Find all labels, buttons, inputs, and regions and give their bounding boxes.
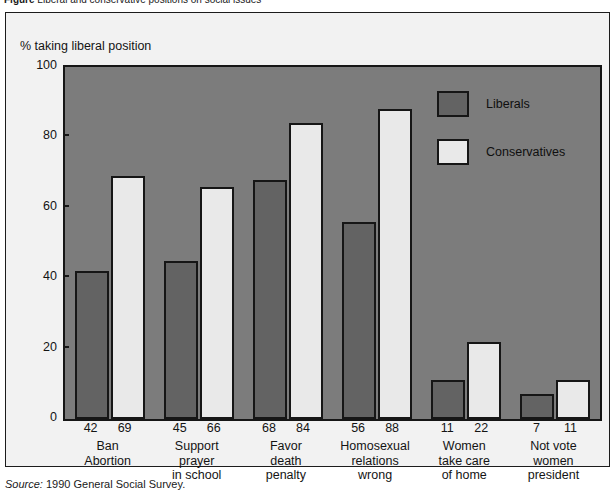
source-note: Source: 1990 General Social Survey. <box>5 478 185 490</box>
x-axis-category-line: take care <box>420 454 509 469</box>
x-axis-category-line: Support <box>152 439 241 454</box>
x-axis-category-line: president <box>509 468 598 483</box>
legend-swatch-conservatives-icon <box>437 139 469 165</box>
figure-caption-prefix: Figure <box>4 0 35 5</box>
y-tick-label: 40 <box>11 269 57 283</box>
x-axis-group: 1122Womentake careof home <box>420 421 509 483</box>
y-tick-mark <box>63 134 69 136</box>
x-axis-category-line: Women <box>420 439 509 454</box>
bar-liberals-1 <box>75 271 109 419</box>
x-axis-value: 42 <box>74 421 108 436</box>
x-axis-category-line: Favor <box>241 439 330 454</box>
y-axis-title: % taking liberal position <box>20 39 151 53</box>
plot-area: Liberals Conservatives <box>63 65 602 421</box>
figure-frame: % taking liberal position 020406080100 L… <box>5 12 610 467</box>
x-axis-category-line: Ban <box>63 439 152 454</box>
x-axis-value-labels: 711 <box>509 421 598 436</box>
x-axis-value: 11 <box>430 421 464 436</box>
bar-liberals-4 <box>342 222 376 419</box>
chart-legend: Liberals Conservatives <box>437 89 597 185</box>
bar-liberals-2 <box>164 261 198 419</box>
y-tick-mark <box>63 346 69 348</box>
figure-caption-body: Liberal and conservative positions on so… <box>37 0 261 5</box>
source-label: Source: <box>5 478 43 490</box>
x-axis-category-label: Not votewomenpresident <box>509 439 598 483</box>
bar-conservatives-3 <box>289 123 323 419</box>
x-axis-value: 69 <box>108 421 142 436</box>
x-axis-category-line: penalty <box>241 468 330 483</box>
bar-conservatives-2 <box>200 187 234 419</box>
x-axis-value: 84 <box>286 421 320 436</box>
x-axis-category-line: women <box>509 454 598 469</box>
x-axis-group: 6884Favordeathpenalty <box>241 421 330 483</box>
y-tick-label: 0 <box>11 410 57 424</box>
x-axis-value: 68 <box>252 421 286 436</box>
x-axis-category-line: Homosexual <box>331 439 420 454</box>
x-axis-value: 22 <box>464 421 498 436</box>
bar-conservatives-4 <box>378 109 412 419</box>
y-axis-tick-labels: 020406080100 <box>6 65 57 417</box>
x-axis-group: 4566Supportprayerin school <box>152 421 241 483</box>
legend-item-conservatives: Conservatives <box>437 137 597 167</box>
bar-conservatives-6 <box>556 380 590 419</box>
x-axis-group: 4269BanAbortion <box>63 421 152 468</box>
bar-liberals-3 <box>253 180 287 419</box>
x-axis-category-label: BanAbortion <box>63 439 152 468</box>
y-tick-label: 80 <box>11 128 57 142</box>
figure-caption: Figure Liberal and conservative position… <box>0 0 616 9</box>
bar-liberals-5 <box>431 380 465 419</box>
figure-caption-text: Figure Liberal and conservative position… <box>4 0 261 5</box>
x-axis-group: 711Not votewomenpresident <box>509 421 598 483</box>
x-axis-value: 66 <box>197 421 231 436</box>
legend-swatch-liberals-icon <box>437 91 469 117</box>
y-tick-label: 60 <box>11 199 57 213</box>
source-text: 1990 General Social Survey. <box>46 478 185 490</box>
x-axis-value: 56 <box>341 421 375 436</box>
x-axis-value: 11 <box>553 421 587 436</box>
bar-conservatives-5 <box>467 342 501 419</box>
x-axis-category-label: Supportprayerin school <box>152 439 241 483</box>
x-axis-category-label: Favordeathpenalty <box>241 439 330 483</box>
legend-item-liberals: Liberals <box>437 89 597 119</box>
y-tick-label: 20 <box>11 340 57 354</box>
x-axis-value: 7 <box>519 421 553 436</box>
x-axis-value-labels: 4269 <box>63 421 152 436</box>
legend-label-conservatives: Conservatives <box>486 145 565 159</box>
x-axis-category-line: death <box>241 454 330 469</box>
x-axis-value: 88 <box>375 421 409 436</box>
bar-conservatives-1 <box>111 176 145 419</box>
legend-label-liberals: Liberals <box>486 97 530 111</box>
x-axis-group: 5688Homosexualrelationswrong <box>331 421 420 483</box>
x-axis-category-label: Womentake careof home <box>420 439 509 483</box>
x-axis-labels: 4269BanAbortion4566Supportprayerin schoo… <box>63 421 598 481</box>
y-tick-mark <box>63 205 69 207</box>
x-axis-value-labels: 5688 <box>331 421 420 436</box>
x-axis-category-line: Abortion <box>63 454 152 469</box>
x-axis-value: 45 <box>163 421 197 436</box>
y-tick-label: 100 <box>11 58 57 72</box>
x-axis-category-line: relations <box>331 454 420 469</box>
x-axis-category-line: prayer <box>152 454 241 469</box>
x-axis-value-labels: 1122 <box>420 421 509 436</box>
bar-liberals-6 <box>520 394 554 419</box>
x-axis-category-line: wrong <box>331 468 420 483</box>
x-axis-value-labels: 6884 <box>241 421 330 436</box>
x-axis-category-line: of home <box>420 468 509 483</box>
x-axis-category-label: Homosexualrelationswrong <box>331 439 420 483</box>
x-axis-value-labels: 4566 <box>152 421 241 436</box>
y-tick-mark <box>63 275 69 277</box>
x-axis-category-line: Not vote <box>509 439 598 454</box>
